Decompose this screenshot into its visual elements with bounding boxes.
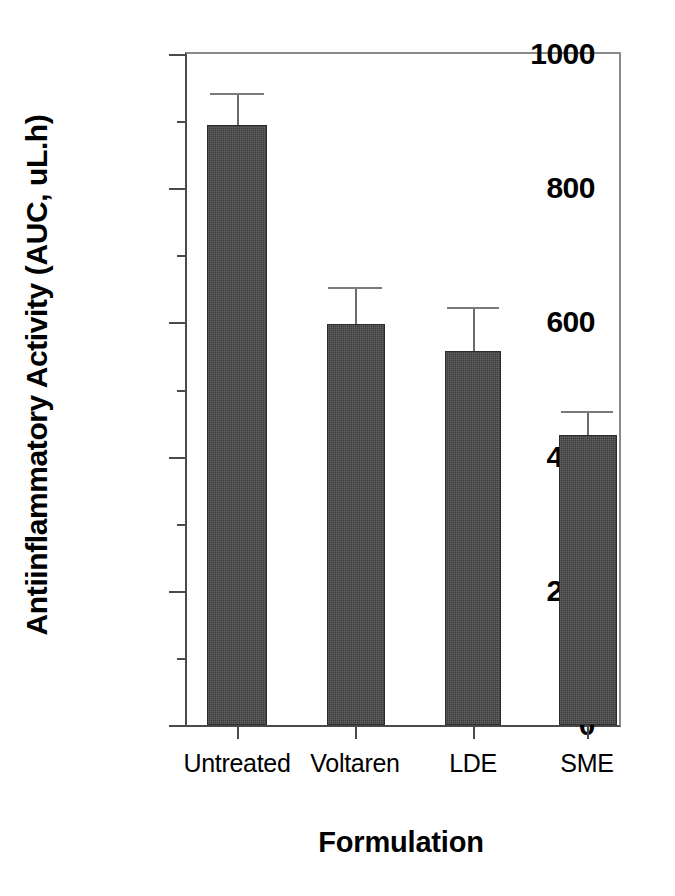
x-tick-label-sme: SME — [560, 749, 613, 778]
y-tick-0 — [169, 725, 187, 727]
bar-voltaren — [327, 324, 385, 725]
bar-sme — [559, 435, 617, 725]
error-cap-voltaren — [328, 287, 382, 289]
x-tick-untreated — [237, 725, 239, 739]
error-bar-untreated — [237, 93, 239, 125]
error-cap-sme — [561, 411, 613, 413]
error-bar-voltaren — [355, 287, 357, 324]
bar-lde — [445, 351, 501, 725]
y-minor-tick-300 — [177, 524, 187, 526]
y-tick-1000 — [169, 54, 187, 56]
y-tick-800 — [169, 188, 187, 190]
y-axis-title: Antiinflammatory Activity (AUC, uL.h) — [14, 5, 60, 745]
bar-untreated — [207, 125, 267, 725]
y-tick-label-600: 600 — [546, 305, 595, 339]
y-tick-label-1000: 1000 — [530, 37, 595, 71]
y-tick-600 — [169, 322, 187, 324]
y-minor-tick-700 — [177, 255, 187, 257]
y-tick-200 — [169, 591, 187, 593]
error-cap-lde — [447, 307, 499, 309]
plot-area: 1000 800 600 400 200 0 Untreated Voltare… — [185, 52, 621, 727]
x-tick-label-voltaren: Voltaren — [310, 749, 399, 778]
y-minor-tick-900 — [177, 121, 187, 123]
y-minor-tick-100 — [177, 658, 187, 660]
y-minor-tick-500 — [177, 390, 187, 392]
x-tick-lde — [473, 725, 475, 739]
error-bar-lde — [473, 307, 475, 351]
x-tick-label-lde: LDE — [449, 749, 497, 778]
y-tick-label-800: 800 — [546, 171, 595, 205]
y-tick-400 — [169, 457, 187, 459]
x-tick-voltaren — [355, 725, 357, 739]
x-tick-label-untreated: Untreated — [183, 749, 290, 778]
error-bar-sme — [587, 411, 589, 435]
x-tick-sme — [587, 725, 589, 739]
chart-figure: Antiinflammatory Activity (AUC, uL.h) 10… — [0, 0, 675, 896]
x-axis-title: Formulation — [185, 826, 617, 859]
error-cap-untreated — [210, 93, 264, 95]
